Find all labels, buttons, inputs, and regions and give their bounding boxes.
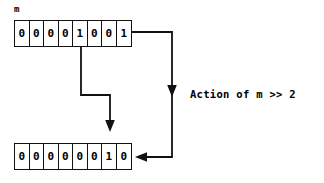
input-bit-cell: 0: [88, 21, 103, 46]
input-bit-cell: 0: [15, 21, 30, 46]
outer-arrowhead-mid-down: [167, 85, 177, 97]
output-bit-cell: 0: [117, 144, 131, 169]
output-bit-cell: 0: [88, 144, 103, 169]
action-caption: Action of m >> 2: [190, 89, 296, 100]
output-bit-cell: 0: [15, 144, 30, 169]
bit-shift-diagram: m 00001001 00000010 Action of m >> 2: [0, 0, 324, 183]
output-bit-cell: 0: [44, 144, 59, 169]
inner-shift-arrow: [81, 48, 115, 132]
output-bit-cell: 1: [102, 144, 117, 169]
outer-flow-arrow: [133, 32, 177, 162]
output-bit-cell: 0: [73, 144, 88, 169]
input-bit-cell: 0: [30, 21, 45, 46]
inner-arrowhead-down: [105, 120, 115, 132]
output-bit-cell: 0: [59, 144, 74, 169]
input-bit-cell: 1: [73, 21, 88, 46]
output-bit-cell: 0: [30, 144, 45, 169]
input-bit-cell: 0: [59, 21, 74, 46]
outer-arrowhead-left: [135, 152, 147, 162]
input-bit-array: 00001001: [14, 20, 132, 47]
input-bit-cell: 0: [102, 21, 117, 46]
output-bit-array: 00000010: [14, 143, 132, 170]
input-bit-cell: 1: [117, 21, 131, 46]
variable-label-m: m: [14, 5, 19, 14]
input-bit-cell: 0: [44, 21, 59, 46]
